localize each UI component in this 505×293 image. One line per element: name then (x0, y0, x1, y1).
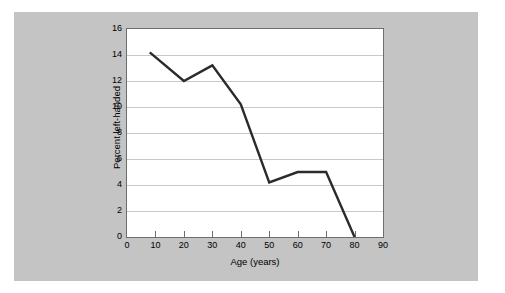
y-axis-tick-labels: 0246810121416 (98, 28, 122, 236)
x-tick-label: 0 (112, 240, 142, 251)
y-tick-label: 16 (100, 23, 122, 33)
y-tick-label: 14 (100, 49, 122, 59)
y-tick-label: 2 (100, 205, 122, 215)
y-tick-label: 8 (100, 127, 122, 137)
y-tick-label: 6 (100, 153, 122, 163)
x-tick-label: 50 (254, 240, 284, 251)
chart-panel: Percent left-handed 0246810121416 010203… (14, 12, 478, 281)
x-tick-label: 90 (368, 240, 398, 251)
x-tick-label: 30 (197, 240, 227, 251)
x-axis-tick-labels: 0102030405060708090 (126, 240, 384, 254)
x-axis-title: Age (years) (126, 256, 384, 267)
y-tick-label: 10 (100, 101, 122, 111)
y-tick-label: 12 (100, 75, 122, 85)
x-tick-label: 20 (169, 240, 199, 251)
y-axis-title-holder: Percent left-handed (84, 28, 98, 236)
chart-svg (127, 29, 383, 237)
x-tick-label: 70 (311, 240, 341, 251)
plot-area (126, 28, 384, 238)
x-tick-label: 10 (140, 240, 170, 251)
line-series-percent-left-handed (150, 52, 355, 237)
x-tick-label: 40 (226, 240, 256, 251)
x-tick-label: 60 (283, 240, 313, 251)
x-tick-label: 80 (340, 240, 370, 251)
data-series-group (150, 52, 355, 237)
figure-canvas: Percent left-handed 0246810121416 010203… (0, 0, 505, 293)
y-tick-label: 4 (100, 179, 122, 189)
x-axis-tick-marks (156, 231, 356, 237)
gridlines (127, 56, 383, 212)
